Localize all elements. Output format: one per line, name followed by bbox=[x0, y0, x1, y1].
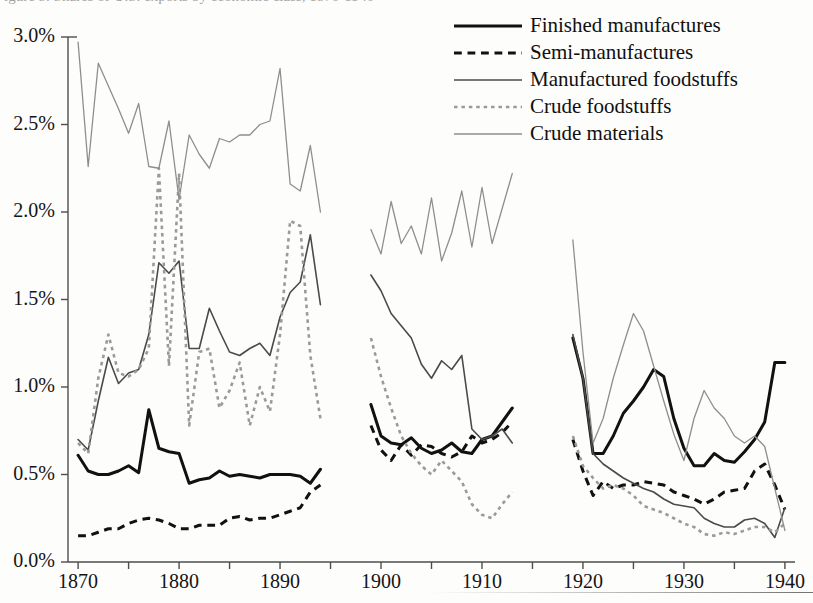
x-axis-tick-1890: 1890 bbox=[240, 570, 320, 593]
x-axis-tick-1920: 1920 bbox=[543, 570, 623, 593]
legend-label: Manufactured foodstuffs bbox=[530, 67, 738, 92]
series-segment-1 bbox=[78, 168, 320, 453]
series-segment-2 bbox=[371, 338, 512, 518]
legend-label: Crude foodstuffs bbox=[530, 94, 671, 119]
legend-key-manufactured-foodstuffs bbox=[452, 72, 524, 88]
series-segment-3 bbox=[573, 240, 785, 531]
x-axis-tick-1910: 1910 bbox=[442, 570, 522, 593]
series-segment-2 bbox=[371, 174, 512, 262]
legend-key-semi-manufactures bbox=[452, 45, 524, 61]
y-axis-tick-20: 2.0% bbox=[0, 199, 55, 222]
series-segment-1 bbox=[78, 42, 320, 212]
legend-item-semi-manufactures[interactable]: Semi-manufactures bbox=[452, 39, 802, 66]
legend-label: Crude materials bbox=[530, 121, 664, 146]
x-axis-tick-1930: 1930 bbox=[644, 570, 724, 593]
legend-item-manufactured-foodstuffs[interactable]: Manufactured foodstuffs bbox=[452, 66, 802, 93]
legend-label: Finished manufactures bbox=[530, 13, 721, 38]
x-axis-tick-1880: 1880 bbox=[139, 570, 219, 593]
legend-label: Semi-manufactures bbox=[530, 40, 693, 65]
series-segment-1 bbox=[78, 410, 320, 484]
series-segment-1 bbox=[78, 485, 320, 536]
legend-key-crude-foodstuffs bbox=[452, 99, 524, 115]
series-finished-manufactures bbox=[78, 338, 785, 483]
y-axis-tick-10: 1.0% bbox=[0, 374, 55, 397]
legend-item-finished-manufactures[interactable]: Finished manufactures bbox=[452, 12, 802, 39]
x-axis-tick-1940: 1940 bbox=[745, 570, 813, 593]
legend-item-crude-foodstuffs[interactable]: Crude foodstuffs bbox=[452, 93, 802, 120]
y-axis-tick-05: 0.5% bbox=[0, 462, 55, 485]
series-crude-foodstuffs bbox=[78, 168, 785, 536]
series-segment-2 bbox=[371, 422, 512, 461]
chart-legend: Finished manufacturesSemi-manufacturesMa… bbox=[452, 12, 802, 147]
legend-item-crude-materials[interactable]: Crude materials bbox=[452, 120, 802, 147]
y-axis-tick-30: 3.0% bbox=[0, 24, 55, 47]
x-axis-tick-1900: 1900 bbox=[341, 570, 421, 593]
page-bottom-rule bbox=[430, 592, 813, 593]
y-axis-tick-25: 2.5% bbox=[0, 112, 55, 135]
series-segment-2 bbox=[371, 275, 512, 443]
x-axis-tick-1870: 1870 bbox=[38, 570, 118, 593]
legend-key-finished-manufactures bbox=[452, 18, 524, 34]
legend-key-crude-materials bbox=[452, 126, 524, 142]
figure-container: igure 5. Shares of U.S. exports by econo… bbox=[0, 0, 813, 603]
series-semi-manufactures bbox=[78, 422, 785, 536]
y-axis-tick-15: 1.5% bbox=[0, 287, 55, 310]
y-axis-tick-00: 0.0% bbox=[0, 549, 55, 572]
series-segment-1 bbox=[78, 235, 320, 450]
